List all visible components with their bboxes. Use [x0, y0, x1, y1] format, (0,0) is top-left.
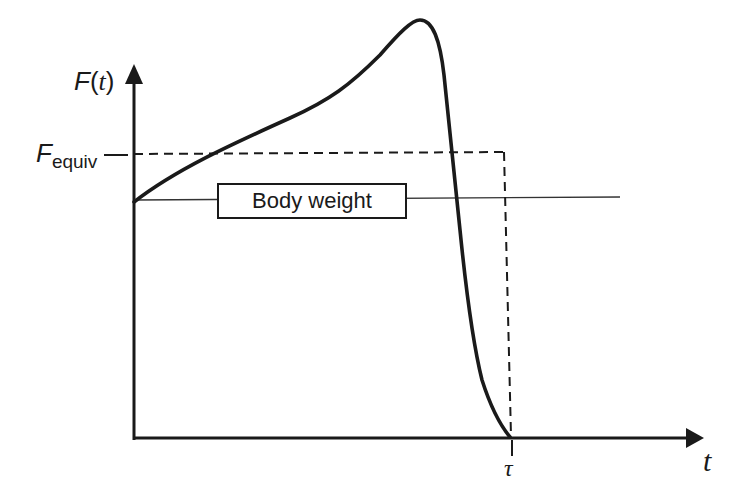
- force-curve: [134, 20, 510, 437]
- y-axis-label-paren-close: ): [106, 66, 115, 96]
- f-equiv-dashed-line: [134, 152, 504, 154]
- y-axis-label-t: t: [99, 67, 106, 96]
- f-equiv-label-sub: equiv: [52, 151, 97, 172]
- tau-label: τ: [504, 456, 513, 480]
- f-equiv-label-f: F: [36, 138, 52, 168]
- y-axis-arrow-icon: [125, 64, 143, 84]
- body-weight-label: Body weight: [252, 188, 372, 214]
- f-equiv-label: Fequiv: [36, 140, 97, 166]
- y-axis-label-paren-open: (: [90, 66, 99, 96]
- x-axis-label: t: [703, 446, 711, 476]
- x-axis-arrow-icon: [686, 428, 704, 448]
- body-weight-box: Body weight: [217, 183, 407, 219]
- tau-dashed-line: [504, 152, 511, 436]
- y-axis-label-f: F: [74, 66, 90, 96]
- y-axis-label: F(t): [74, 68, 114, 95]
